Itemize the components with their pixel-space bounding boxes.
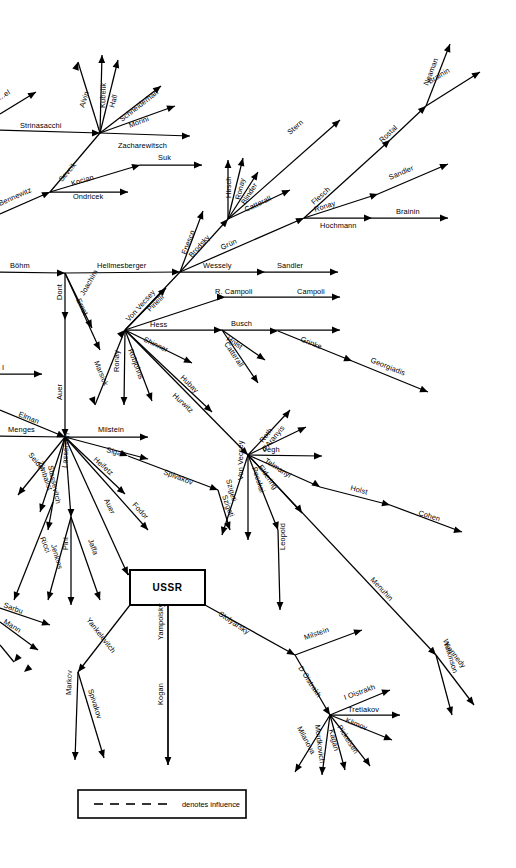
edge-label-busch: Busch [231, 319, 252, 328]
arrowhead-25 [369, 191, 379, 200]
arrowhead-30 [444, 43, 453, 53]
arrowhead-15 [330, 269, 338, 276]
arrowhead-6 [182, 133, 190, 140]
edge-label-hess: Hess [150, 320, 167, 329]
edge-label-milstein: Milstein [98, 425, 124, 434]
edge-label-cohen: Cohen [417, 508, 441, 523]
arrowhead-75 [311, 480, 321, 490]
edge-label-mordkovich: Mordkovich [313, 724, 327, 764]
arrowhead-27 [364, 215, 372, 222]
edge-label-bennewitz: Bennewitz [0, 185, 33, 208]
arrowhead-22 [281, 187, 291, 197]
edge-label-ronay: Ronay [112, 350, 121, 372]
arrowhead-69 [94, 591, 103, 601]
arrowhead-44 [251, 374, 261, 384]
edge-label-group: StrinasacchiAlvinKubelikHallSchneiderhan… [0, 57, 468, 764]
arrowhead-14 [257, 269, 265, 276]
arrowhead-99 [292, 763, 302, 773]
arrowhead-9 [131, 162, 141, 171]
arrowhead-28 [440, 215, 448, 222]
arrowhead-20 [238, 157, 247, 166]
arrowhead-42 [332, 327, 340, 334]
arrowhead-65 [68, 509, 75, 517]
edge-label-leopold: Leopold [278, 523, 287, 550]
edge-line-jaffa [71, 517, 100, 600]
arrowhead-31 [471, 69, 481, 79]
arrowhead-21 [251, 170, 261, 180]
arrowhead-group [11, 43, 482, 775]
arrowhead-90 [286, 648, 296, 658]
edge-label-auer: Auer [102, 497, 117, 516]
edge-label-ernst: Ernst [74, 297, 90, 317]
edge-label-v-gh: Végh [262, 445, 280, 454]
edge-group [0, 44, 480, 775]
arrowhead-39 [332, 294, 340, 301]
arrowhead-68 [68, 597, 75, 605]
edge-label-yankelevitch: Yankelevitch [84, 616, 117, 655]
ussr-node: USSR [128, 570, 205, 605]
edge-label-jaffa: Jaffa [86, 538, 100, 557]
arrowhead-50 [121, 397, 128, 405]
arrowhead-94 [392, 712, 400, 719]
arrowhead-2 [98, 55, 105, 63]
edge-label-kubelik: Kubelik [98, 83, 108, 108]
edge-label-tretiakov: Tretiakov [348, 705, 379, 714]
arrowhead-43 [256, 353, 266, 363]
arrowhead-58 [209, 484, 219, 493]
edge-label-georgiadis: Georgiadis [369, 356, 407, 378]
arrowhead-19 [225, 160, 232, 168]
edge-line-strinasacchi [0, 130, 100, 133]
edge-line-menges [0, 436, 65, 437]
edge-label-mann: Mann [2, 617, 23, 635]
arrowhead-46 [419, 386, 429, 395]
lineage-diagram-canvas: StrinasacchiAlvinKubelikHallSchneiderhan… [0, 0, 516, 868]
edge-label-pini: Pini [61, 537, 70, 550]
arrowhead-73 [297, 424, 307, 434]
edge-label-sarbu: Sarbu [2, 600, 24, 615]
edge-line-b-hm [0, 272, 65, 273]
edge-label--el: ...el [0, 87, 12, 101]
edge-line-zacharewitsch [100, 133, 190, 136]
legend: denotes influence [78, 790, 246, 818]
arrowhead-48 [146, 392, 155, 402]
arrowhead-32 [62, 312, 69, 320]
arrowhead-10 [120, 189, 128, 196]
arrowhead-97 [340, 761, 349, 770]
edge-label-fodor: Fodor [131, 500, 151, 521]
arrowhead-101 [11, 654, 21, 664]
arrowhead-100 [34, 371, 42, 378]
arrowhead-91 [353, 627, 363, 636]
edge-label-campoli: Campoli [297, 287, 325, 296]
edge-label-brainin: Brainin [396, 207, 420, 216]
edge-line-102 [0, 645, 14, 662]
edge-label-elman: Elman [17, 410, 40, 426]
edge-label-yampolsky: Yampolsky [156, 603, 165, 640]
edge-label-b-hm: Böhm [10, 261, 30, 270]
edge-label-sandler: Sandler [277, 261, 304, 270]
edge-label-i-oistrakh: I Oistrakh [343, 682, 377, 702]
arrowhead-81 [219, 526, 228, 536]
arrowhead-84 [466, 697, 476, 707]
arrowhead-87 [72, 752, 79, 760]
edge-label-lasserson: Lasserson [60, 433, 71, 469]
edge-label-menuhin: Menuhin [369, 575, 395, 602]
arrowhead-98 [319, 767, 326, 775]
arrowhead-78 [453, 526, 463, 535]
edge-label-stern: Stern [285, 118, 305, 137]
edge-label-d-oistrakh: D Oistrakh [296, 664, 323, 699]
arrowhead-47 [183, 356, 193, 366]
arrowhead-93 [381, 687, 391, 696]
edge-line-v-gh [248, 455, 322, 456]
arrowhead-35 [93, 341, 103, 351]
legend-text: denotes influence [182, 800, 240, 809]
arrowhead-70 [41, 619, 51, 628]
edge-label-gr-n: Grün [219, 237, 238, 252]
arrowhead-74 [314, 453, 322, 460]
arrowhead-16 [197, 210, 206, 220]
edge-label-hurwitz: Hurwitz [171, 391, 196, 415]
edge-label-holst: Holst [349, 483, 368, 496]
edge-label-robjohns: Robjohns [126, 347, 146, 380]
edge-label-zacharewitsch: Zacharewitsch [118, 141, 167, 150]
edge-label-grinke: Grinke [299, 335, 323, 352]
lineage-svg: StrinasacchiAlvinKubelikHallSchneiderhan… [0, 0, 516, 868]
